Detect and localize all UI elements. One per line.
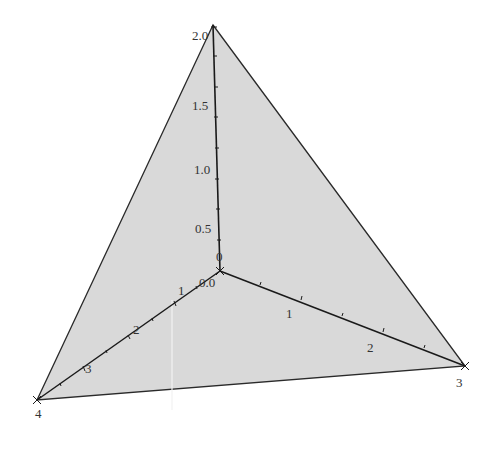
- right-label-3: 3: [456, 375, 463, 390]
- right-label-1: 1: [286, 306, 293, 321]
- shaded-plane: [37, 25, 465, 400]
- z-label-0.5: 0.5: [195, 221, 211, 236]
- left-label-4: 4: [35, 406, 42, 421]
- left-label-3: 3: [85, 361, 92, 376]
- z-label-2.0: 2.0: [192, 28, 208, 43]
- left-label-2: 2: [133, 322, 140, 337]
- left-label-1: 1: [178, 283, 185, 298]
- origin-label: 0.0: [199, 275, 215, 290]
- z-label-0: 0: [216, 249, 223, 264]
- z-label-1.0: 1.0: [194, 162, 210, 177]
- right-label-2: 2: [367, 340, 374, 355]
- tetrahedron-plot: 2.0 1.5 1.0 0.5 0 0.0 1 2 3 4 1 2 3: [0, 0, 499, 455]
- figure-canvas: 2.0 1.5 1.0 0.5 0 0.0 1 2 3 4 1 2 3: [0, 0, 499, 455]
- z-label-1.5: 1.5: [192, 98, 208, 113]
